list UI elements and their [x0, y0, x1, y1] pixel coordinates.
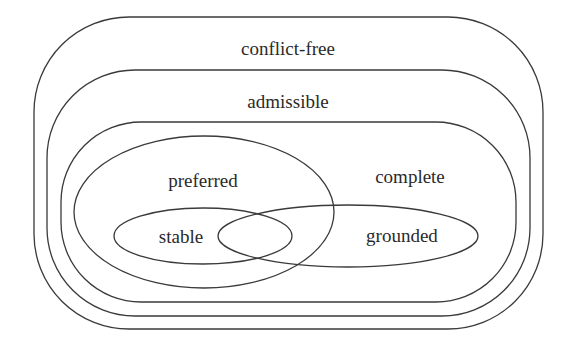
label-complete: complete [375, 166, 445, 187]
diagram-svg: conflict-free admissible complete prefer… [0, 0, 568, 356]
set-boundary-complete [61, 122, 516, 302]
label-admissible: admissible [247, 91, 328, 112]
shapes-layer [34, 17, 543, 329]
label-stable: stable [159, 226, 203, 247]
set-boundary-preferred [74, 136, 334, 288]
label-conflict-free: conflict-free [241, 38, 335, 59]
set-boundary-grounded [218, 205, 478, 267]
label-grounded: grounded [366, 225, 438, 246]
label-preferred: preferred [168, 170, 238, 191]
set-boundary-conflict-free [34, 17, 543, 329]
set-diagram: conflict-free admissible complete prefer… [0, 0, 568, 356]
